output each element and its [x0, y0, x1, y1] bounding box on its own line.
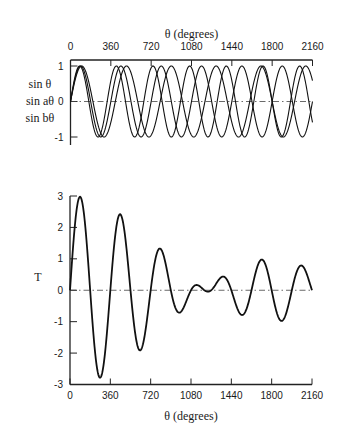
bottom-y-tick-label: 1: [57, 253, 63, 264]
top-chart-sine-components: θ (degrees) 03607201080144018002160 10-1…: [26, 27, 324, 145]
top-x-tick-labels: 03607201080144018002160: [68, 41, 324, 52]
bottom-y-tick-label: -2: [54, 348, 63, 359]
series-label: sin aθ: [26, 94, 54, 108]
bottom-x-axis-title: θ (degrees): [164, 409, 217, 423]
bottom-chart-sum-T: T 3210-1-2-3 03607201080144018002160 θ (…: [34, 191, 323, 424]
top-x-tick-label: 720: [143, 41, 160, 52]
bottom-y-tick-label: -1: [54, 316, 63, 327]
bottom-y-tick-label: 0: [57, 285, 63, 296]
bottom-x-tick-label: 1440: [220, 390, 243, 401]
top-y-tick-labels: 10-1: [55, 61, 64, 143]
top-series-labels: sin θsin aθsin bθ: [26, 77, 55, 125]
series-label: sin θ: [29, 77, 52, 91]
bottom-y-tick-labels: 3210-1-2-3: [54, 191, 63, 391]
figure: θ (degrees) 03607201080144018002160 10-1…: [0, 0, 341, 430]
bottom-y-tick-label: -3: [54, 379, 63, 390]
bottom-y-tick-label: 2: [57, 222, 63, 233]
bottom-y-tick-label: 3: [57, 191, 63, 202]
top-x-tick-label: 360: [102, 41, 119, 52]
top-x-tick-label: 0: [68, 41, 74, 52]
top-x-axis-title: θ (degrees): [165, 27, 218, 41]
top-x-tick-label: 2160: [301, 41, 324, 52]
bottom-x-tick-label: 0: [67, 390, 73, 401]
bottom-x-tick-label: 720: [142, 390, 159, 401]
top-y-tick-label: -1: [55, 132, 64, 143]
bottom-x-tick-label: 1080: [180, 390, 203, 401]
top-x-tick-label: 1440: [221, 41, 244, 52]
top-y-tick-label: 1: [58, 61, 64, 72]
bottom-x-tick-label: 1800: [261, 390, 284, 401]
bottom-y-axis-label: T: [34, 270, 42, 284]
series-label: sin bθ: [26, 111, 55, 125]
top-x-tick-label: 1080: [180, 41, 203, 52]
bottom-T-curve: [70, 197, 312, 378]
bottom-x-tick-label: 360: [102, 390, 119, 401]
bottom-x-tick-labels: 03607201080144018002160: [67, 390, 323, 401]
bottom-x-tick-label: 2160: [301, 390, 324, 401]
top-x-tick-label: 1800: [261, 41, 284, 52]
top-y-tick-label: 0: [58, 96, 64, 107]
